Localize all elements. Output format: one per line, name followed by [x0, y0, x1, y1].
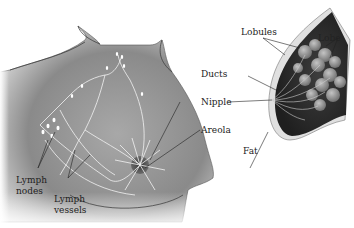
- label-nipple: Nipple: [201, 97, 231, 107]
- label-lymph-vessels-line1: Lymph: [54, 194, 85, 204]
- label-ducts: Ducts: [201, 69, 227, 79]
- label-lymph-vessels-line2: vessels: [54, 205, 86, 215]
- label-lobules: Lobules: [241, 27, 277, 37]
- label-lymph-nodes-line1: Lymph: [16, 175, 47, 185]
- label-lobe: Lobe: [318, 33, 340, 43]
- label-lymph-nodes-line2: nodes: [16, 186, 43, 196]
- torso-figure: [0, 26, 230, 228]
- label-fat: Fat: [243, 146, 258, 156]
- breast-anatomy-diagram: Lobules Lobe Ducts Nipple Areola Fat Lym…: [0, 0, 354, 228]
- label-areola: Areola: [201, 125, 231, 135]
